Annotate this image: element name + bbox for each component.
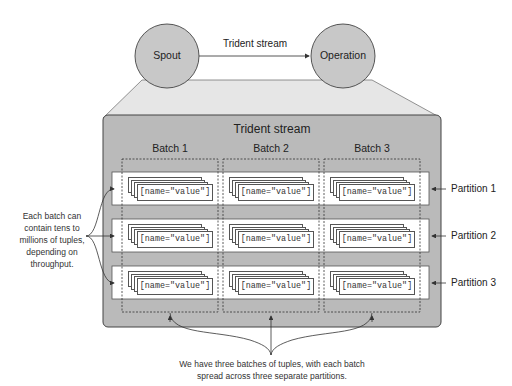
partition-label-1: Partition 1	[451, 183, 496, 194]
operation-label: Operation	[313, 49, 373, 61]
stream-box-title: Trident stream	[222, 122, 322, 136]
tuple-text: [name="value"]	[339, 278, 415, 295]
batch-size-note: Each batch can contain tens to millions …	[16, 210, 88, 270]
edge-label: Trident stream	[210, 38, 300, 49]
tuple-text: [name="value"]	[137, 278, 213, 295]
tuple-text: [name="value"]	[137, 231, 213, 248]
tuple-text: [name="value"]	[137, 184, 213, 201]
tuple-stack: [name="value"]	[330, 177, 418, 199]
tuple-stack: [name="value"]	[128, 271, 216, 293]
tuple-text: [name="value"]	[238, 231, 314, 248]
tuple-text: [name="value"]	[339, 231, 415, 248]
tuple-text: [name="value"]	[238, 278, 314, 295]
tuple-stack: [name="value"]	[330, 271, 418, 293]
bottom-note-line-2: spread across three separate partitions.	[150, 370, 394, 382]
partition-label-3: Partition 3	[451, 277, 496, 288]
bottom-note-line-1: We have three batches of tuples, with ea…	[150, 358, 394, 370]
tuple-stack: [name="value"]	[229, 177, 317, 199]
tuple-stack: [name="value"]	[229, 224, 317, 246]
tuple-stack: [name="value"]	[128, 224, 216, 246]
tuple-text: [name="value"]	[339, 184, 415, 201]
batch-label-1: Batch 1	[140, 142, 200, 154]
tuple-stack: [name="value"]	[128, 177, 216, 199]
partition-label-2: Partition 2	[451, 230, 496, 241]
tuple-stack: [name="value"]	[330, 224, 418, 246]
zoom-projection	[103, 80, 441, 118]
spout-label: Spout	[147, 49, 187, 61]
tuple-stack: [name="value"]	[229, 271, 317, 293]
batch-label-2: Batch 2	[241, 142, 301, 154]
batch-label-3: Batch 3	[342, 142, 402, 154]
tuple-text: [name="value"]	[238, 184, 314, 201]
